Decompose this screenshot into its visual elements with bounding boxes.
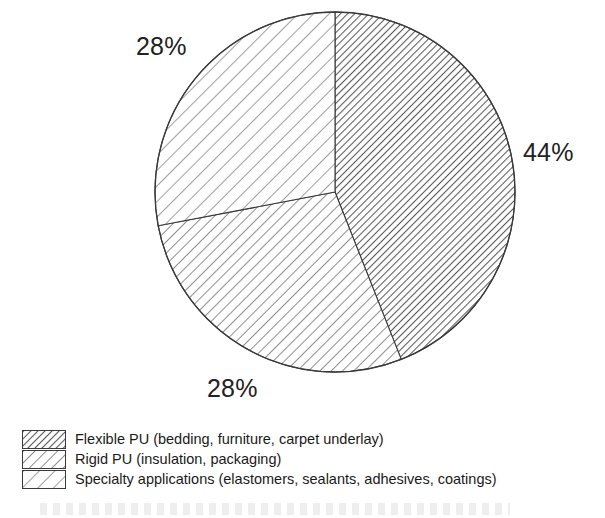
legend-item-flexible-pu[interactable]: Flexible PU (bedding, furniture, carpet … bbox=[22, 429, 587, 449]
dense-diagonal-hatch-swatch-icon bbox=[22, 430, 66, 449]
medium-diagonal-hatch-swatch-icon bbox=[22, 450, 66, 469]
legend-label-specialty-applications: Specialty applications (elastomers, seal… bbox=[75, 470, 497, 489]
pie-chart-svg bbox=[0, 0, 605, 418]
legend-label-flexible-pu: Flexible PU (bedding, furniture, carpet … bbox=[75, 430, 384, 449]
coarse-diagonal-hatch-swatch-icon bbox=[22, 470, 66, 489]
chart-legend: Flexible PU (bedding, furniture, carpet … bbox=[22, 429, 587, 489]
pie-label-28-percent-upper-left: 28% bbox=[136, 34, 187, 59]
scan-artifact-strip bbox=[40, 503, 510, 515]
legend-item-rigid-pu[interactable]: Rigid PU (insulation, packaging) bbox=[22, 449, 587, 469]
pie-label-28-percent-bottom: 28% bbox=[207, 376, 258, 401]
pie-label-44-percent: 44% bbox=[523, 140, 574, 165]
pie-chart-figure: 44% 28% 28% Flexible PU (bedding, furnit… bbox=[0, 0, 605, 518]
legend-item-specialty-applications[interactable]: Specialty applications (elastomers, seal… bbox=[22, 469, 587, 489]
pie-chart-area: 44% 28% 28% bbox=[0, 0, 605, 418]
legend-label-rigid-pu: Rigid PU (insulation, packaging) bbox=[75, 450, 281, 469]
